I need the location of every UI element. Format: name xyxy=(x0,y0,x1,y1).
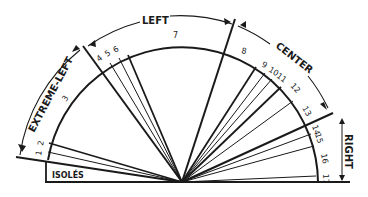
outer-arc-left xyxy=(88,22,140,46)
outer-arc-left-2 xyxy=(170,16,232,24)
political-spectrum-diagram: EXTREME-LEFT LEFT CENTER RIGHT ISOLÉS 1 … xyxy=(0,0,368,197)
outer-arc-center-2 xyxy=(308,76,328,108)
inner-arc xyxy=(48,47,318,182)
label-isoles: ISOLÉS xyxy=(52,169,84,180)
arrow-icon xyxy=(339,118,345,124)
seat-number-1: 1 xyxy=(34,150,44,157)
seat-number-13: 13 xyxy=(300,105,313,118)
seat-number-17: 17 xyxy=(321,174,331,185)
seat-line xyxy=(182,134,311,182)
seat-number-4: 4 xyxy=(95,53,105,63)
arrow-icon xyxy=(224,18,231,25)
seat-number-7: 7 xyxy=(173,31,178,40)
seat-number-6: 6 xyxy=(112,44,121,54)
outer-arc-center xyxy=(238,26,270,44)
arrow-icon xyxy=(89,40,96,47)
seat-line xyxy=(119,58,182,182)
seat-line xyxy=(182,101,293,182)
seat-number-3: 3 xyxy=(60,94,70,103)
seat-number-5: 5 xyxy=(103,48,112,58)
seat-number-15: 15 xyxy=(313,132,324,144)
arrow-icon xyxy=(339,175,345,181)
seat-number-16: 16 xyxy=(319,153,330,165)
arrow-icon xyxy=(18,144,26,152)
boundary-extreme-left xyxy=(16,157,182,182)
seat-number-8: 8 xyxy=(241,46,248,56)
label-left: LEFT xyxy=(142,15,169,26)
label-right: RIGHT xyxy=(343,134,354,169)
label-extreme-left: EXTREME-LEFT xyxy=(26,55,75,134)
seat-line xyxy=(182,73,265,182)
seat-number-9: 9 xyxy=(260,60,269,70)
seat-number-2: 2 xyxy=(36,140,46,147)
seat-number-12: 12 xyxy=(289,81,303,95)
seat-line xyxy=(182,79,272,182)
